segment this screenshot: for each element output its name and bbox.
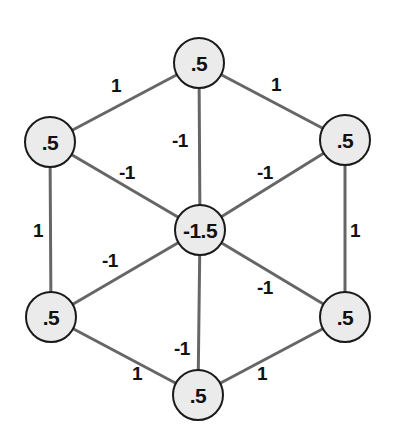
edge-weight-label: 1 [33, 221, 43, 240]
graph-edge [50, 142, 200, 230]
edge-weight-label: -1 [257, 163, 273, 182]
node-value-label: .5 [337, 130, 354, 151]
edge-weight-label: -1 [102, 251, 118, 270]
edge-weight-label: 1 [350, 221, 360, 240]
node-value-label: .5 [42, 132, 59, 153]
edge-weight-label: -1 [174, 339, 190, 358]
edge-weight-label: -1 [172, 131, 188, 150]
graph-diagram: .5.5.5-1.5.5.5.5111111-1-1-1-1-1-1 [0, 0, 398, 436]
edge-weight-label: 1 [132, 364, 142, 383]
node-value-label: -1.5 [183, 220, 217, 241]
edge-weight-label: 1 [257, 364, 267, 383]
node-value-label: .5 [43, 307, 60, 328]
graph-edge [50, 142, 51, 317]
node-value-label: .5 [337, 307, 354, 328]
edge-weight-label: 1 [111, 76, 121, 95]
node-value-label: .5 [191, 53, 208, 74]
edge-weight-label: -1 [119, 163, 135, 182]
node-value-label: .5 [190, 385, 207, 406]
edge-weight-label: 1 [271, 75, 281, 94]
edge-weight-label: -1 [257, 278, 273, 297]
